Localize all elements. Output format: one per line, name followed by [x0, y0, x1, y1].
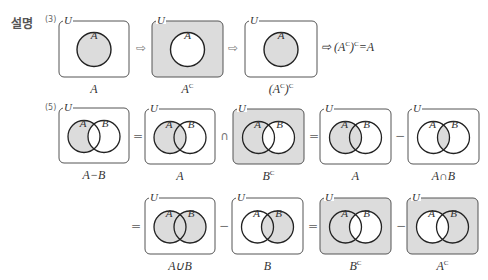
diagram-caption: A [316, 169, 396, 184]
diagram-caption: AC [403, 259, 483, 274]
operator-symbol: = [309, 129, 319, 143]
set-b-label: B [188, 207, 195, 219]
venn-two-sets: UAB [59, 101, 129, 163]
set-a-label: A [277, 29, 285, 41]
universe-label: U [64, 101, 73, 113]
set-b-label: B [276, 118, 283, 130]
venn-single-set: UA [245, 14, 317, 77]
part-number-label: (3) [45, 15, 56, 24]
operator-symbol: ∩ [220, 129, 229, 143]
venn-two-sets: UAB [408, 102, 479, 164]
set-b-label: B [188, 118, 195, 130]
set-a-label: A [428, 118, 436, 130]
set-b-label: B [450, 207, 457, 219]
venn-single-set: UA [152, 14, 223, 77]
diagram-caption: BC [229, 169, 309, 184]
operator-symbol: = [131, 219, 141, 233]
set-a-label: A [427, 207, 435, 219]
diagram-caption: BC [316, 259, 396, 274]
operator-symbol: ⇨ [136, 41, 146, 55]
set-b-label: B [363, 118, 370, 130]
part-number-label: (5) [45, 103, 56, 112]
set-a-label: A [165, 207, 173, 219]
set-a-label: A [79, 117, 87, 129]
universe-label: U [64, 14, 73, 26]
operator-symbol: = [133, 129, 143, 143]
diagram-caption: A−B [54, 168, 134, 183]
venn-two-sets: UAB [232, 191, 303, 254]
venn-diagram-canvas: UAUAUAUABUABUABUABUABUABUABUABUAB [0, 0, 488, 280]
diagram-caption: A∪B [140, 259, 220, 274]
universe-label: U [413, 102, 422, 114]
venn-two-sets: UAB [145, 191, 215, 254]
venn-single-set: UA [59, 14, 129, 77]
universe-label: U [238, 102, 247, 114]
set-a-label: A [90, 29, 98, 41]
universe-label: U [250, 14, 259, 26]
venn-two-sets: UAB [320, 102, 391, 164]
set-a-label: A [252, 207, 260, 219]
operator-symbol: − [396, 219, 406, 233]
universe-label: U [150, 102, 159, 114]
diagram-caption: B [228, 259, 308, 274]
conclusion-equation: ⇨ (AC)C=A [321, 40, 374, 55]
universe-label: U [325, 191, 334, 203]
set-a-label: A [340, 207, 348, 219]
set-a-label: A [165, 118, 173, 130]
universe-label: U [412, 191, 421, 203]
set-b-label: B [275, 207, 282, 219]
set-b-label: B [102, 117, 109, 129]
diagram-caption: (AC)C [241, 82, 321, 97]
operator-symbol: − [219, 219, 229, 233]
universe-label: U [325, 102, 334, 114]
venn-two-sets: UAB [407, 191, 478, 254]
set-a-label: A [253, 118, 261, 130]
universe-label: U [237, 191, 246, 203]
universe-label: U [157, 14, 166, 26]
operator-symbol: = [308, 219, 318, 233]
venn-two-sets: UAB [320, 191, 391, 254]
set-a-label: A [183, 29, 191, 41]
set-a-label: A [340, 118, 348, 130]
diagram-caption: A [54, 82, 134, 97]
diagram-caption: AC [148, 82, 228, 97]
universe-label: U [150, 191, 159, 203]
operator-symbol: − [395, 129, 405, 143]
set-b-label: B [363, 207, 370, 219]
diagram-caption: A∩B [404, 169, 484, 184]
operator-symbol: ⇨ [228, 41, 238, 55]
set-b-label: B [451, 118, 458, 130]
venn-two-sets: UAB [233, 102, 304, 164]
diagram-caption: A [140, 169, 220, 184]
venn-two-sets: UAB [145, 102, 215, 164]
